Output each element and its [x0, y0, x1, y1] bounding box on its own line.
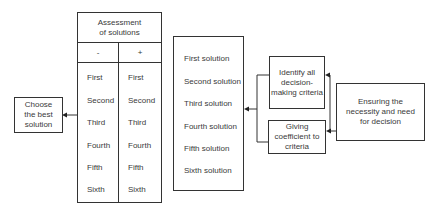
solutions-box: First solution Second solution Third sol…: [173, 36, 244, 191]
solution-fifth: Fifth solution: [184, 144, 229, 154]
minus-header-cell: -: [78, 43, 119, 63]
plus-item-second: Second: [128, 96, 155, 106]
assessment-title-cell: Assessment of solutions: [78, 13, 161, 43]
solution-second: Second solution: [184, 77, 241, 87]
identify-criteria-label: Identify all decision-making criteria: [270, 68, 324, 98]
assessment-title: Assessment of solutions: [95, 18, 145, 38]
plus-item-third: Third: [128, 118, 146, 128]
minus-item-sixth: Sixth: [87, 185, 105, 195]
giving-coefficient-box: Giving coefficient to criteria: [268, 120, 326, 154]
solution-sixth: Sixth solution: [184, 166, 232, 176]
minus-item-first: First: [87, 73, 103, 83]
plus-header-cell: +: [119, 43, 161, 63]
plus-sign: +: [138, 48, 143, 57]
solution-fourth: Fourth solution: [184, 122, 237, 132]
column-divider: [118, 63, 119, 202]
ensuring-necessity-label: Ensuring the necessity and need for deci…: [341, 97, 421, 127]
assessment-table: Assessment of solutions - + First Second…: [77, 12, 162, 203]
plus-item-fourth: Fourth: [128, 141, 151, 151]
minus-item-third: Third: [87, 118, 105, 128]
identify-criteria-box: Identify all decision-making criteria: [269, 56, 325, 109]
choose-best-solution-label: Choose the best solution: [19, 100, 59, 130]
choose-best-solution-box: Choose the best solution: [14, 97, 63, 133]
minus-item-fourth: Fourth: [87, 141, 110, 151]
plus-item-fifth: Fifth: [128, 163, 144, 173]
minus-item-second: Second: [87, 96, 114, 106]
solution-third: Third solution: [184, 99, 232, 109]
giving-coefficient-label: Giving coefficient to criteria: [269, 122, 325, 152]
minus-item-fifth: Fifth: [87, 163, 103, 173]
plus-item-sixth: Sixth: [128, 185, 146, 195]
plus-item-first: First: [128, 73, 144, 83]
minus-sign: -: [97, 48, 100, 57]
ensuring-necessity-box: Ensuring the necessity and need for deci…: [336, 83, 425, 141]
solution-first: First solution: [184, 54, 229, 64]
